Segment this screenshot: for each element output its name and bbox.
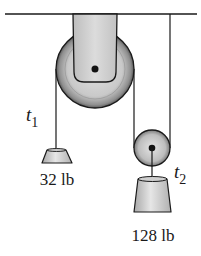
left-weight bbox=[42, 149, 72, 164]
left-weight-label: 32 lb bbox=[40, 170, 74, 189]
right-weight bbox=[134, 177, 171, 213]
axle-dot bbox=[92, 66, 99, 73]
tension-t2-label: t2 bbox=[174, 161, 186, 187]
tension-t1-label: t1 bbox=[26, 104, 38, 130]
right-weight-label: 128 lb bbox=[132, 226, 175, 245]
pulley-diagram: t1 t2 32 lb 128 lb bbox=[0, 0, 201, 256]
